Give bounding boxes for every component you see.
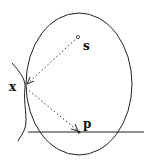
label-s: s <box>83 39 90 53</box>
source-point <box>76 35 79 38</box>
receiver-point <box>78 131 81 134</box>
surface-curve <box>12 63 26 141</box>
ray-x-to-p <box>26 88 78 131</box>
diagram-canvas: s x p <box>0 0 151 163</box>
label-p: p <box>83 117 91 131</box>
label-x: x <box>9 80 17 94</box>
arrowhead-at-p <box>71 124 78 131</box>
ellipse-boundary <box>26 13 132 155</box>
